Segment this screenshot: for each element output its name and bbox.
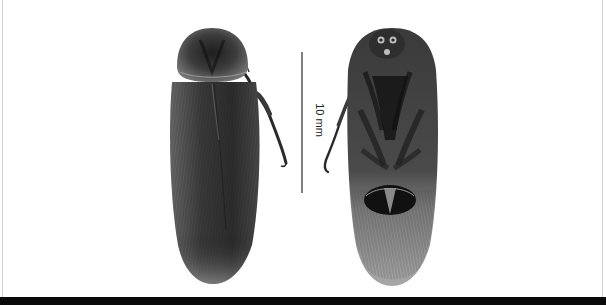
specimen-illustration [0, 0, 606, 305]
specimen-figure: 10 mm [0, 0, 606, 305]
ventral-specimen [325, 28, 438, 286]
dorsal-specimen [170, 28, 286, 284]
bottom-black-bar [0, 297, 606, 305]
scale-bar-label: 10 mm [313, 100, 327, 140]
